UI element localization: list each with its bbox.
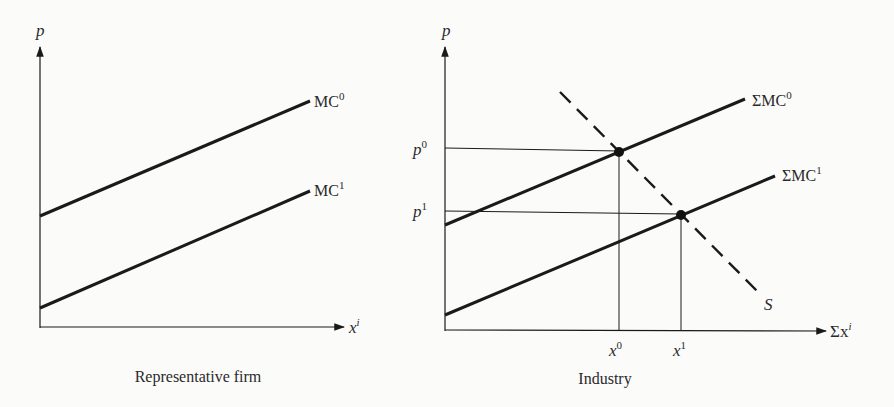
panel-industry: p Σxi p0 p1 x0 x1 ΣMC0 ΣMC1 S Industry [412, 21, 851, 388]
x-axis [445, 330, 826, 331]
supply-curve-label: S [764, 295, 773, 314]
sum-mc0-label: ΣMC0 [752, 89, 792, 109]
equilibrium-point-0 [614, 147, 624, 157]
caption-industry: Industry [578, 370, 631, 388]
mc0-curve [40, 101, 310, 216]
p1-tick-label: p1 [412, 200, 427, 221]
mc1-curve [40, 191, 310, 308]
y-axis-label: p [441, 21, 451, 40]
caption-representative-firm: Representative firm [135, 368, 262, 386]
x0-tick-label: x0 [608, 339, 623, 360]
mc1-label: MC1 [314, 179, 344, 199]
x-axis-label: Σxi [830, 320, 851, 341]
x1-tick-label: x1 [672, 339, 686, 360]
x-axis-label: xi [348, 316, 360, 337]
mc0-label: MC0 [314, 90, 345, 110]
y-axis-label: p [35, 21, 45, 40]
sum-mc1-label: ΣMC1 [782, 164, 822, 184]
equilibrium-point-1 [676, 210, 686, 220]
p0-guide-line [445, 148, 619, 151]
p0-tick-label: p0 [412, 138, 428, 159]
panel-representative-firm: p xi MC0 MC1 Representative firm [35, 21, 360, 386]
diagram-canvas: p xi MC0 MC1 Representative firm p Σxi p… [0, 0, 894, 407]
sum-mc1-curve [445, 176, 775, 315]
